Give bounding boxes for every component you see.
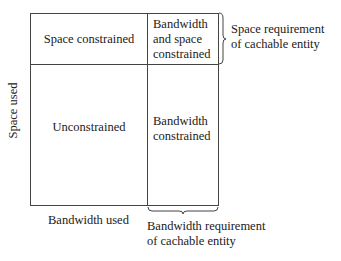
space-requirement-label: Space requirement of cachable entity — [231, 22, 324, 52]
cell-unconstrained: Unconstrained — [31, 120, 147, 135]
bandwidth-requirement-label: Bandwidth requirement of cachable entity — [147, 219, 265, 249]
cell-line: Bandwidth — [153, 17, 219, 32]
cell-line: constrained — [153, 129, 219, 144]
cell-line: and space — [153, 32, 219, 47]
annotation-line: of cachable entity — [231, 37, 324, 52]
cell-line: constrained — [153, 47, 219, 62]
cell-bandwidth-and-space-constrained: Bandwidth and space constrained — [153, 17, 219, 62]
annotation-line: Bandwidth requirement — [147, 219, 265, 234]
cell-bandwidth-constrained: Bandwidth constrained — [153, 114, 219, 144]
x-axis-label: Bandwidth used — [48, 213, 129, 228]
cell-line: Bandwidth — [153, 114, 219, 129]
cell-space-constrained: Space constrained — [31, 32, 147, 47]
bandwidth-requirement-brace — [148, 207, 218, 214]
y-axis-label: Space used — [6, 76, 21, 146]
annotation-line: Space requirement — [231, 22, 324, 37]
annotation-line: of cachable entity — [147, 234, 265, 249]
space-requirement-brace — [219, 13, 226, 64]
